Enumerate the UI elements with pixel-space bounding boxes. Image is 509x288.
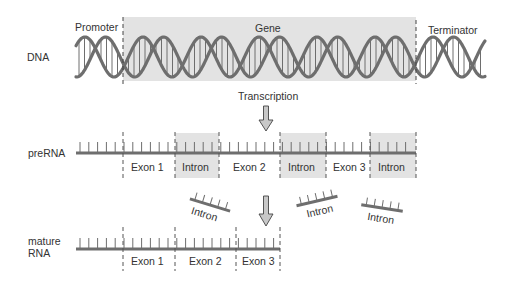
dna-row: DNA Promoter Gene Terminator	[27, 17, 485, 84]
down-arrow-icon	[259, 196, 273, 226]
excised-intron-2-label: Intron	[305, 202, 334, 220]
gene-label: Gene	[255, 22, 281, 34]
prerna-row-label: preRNA	[28, 147, 65, 159]
terminator-label: Terminator	[428, 24, 478, 36]
gene-splicing-diagram: DNA Promoter Gene Terminator Transcripti…	[0, 0, 509, 288]
promoter-label: Promoter	[75, 21, 119, 33]
prerna-intron-2-label: Intron	[288, 161, 315, 173]
prerna-exon-1-label: Exon 1	[131, 161, 164, 173]
mature-rna-row-label-line1: mature	[28, 235, 61, 247]
mature-rna-row: mature RNA Exon 1 Exon 2 Exon 3	[28, 227, 280, 271]
mature-rna-row-label-line2: RNA	[28, 247, 50, 259]
down-arrow-icon	[259, 106, 273, 131]
prerna-ticks	[80, 142, 406, 153]
excised-intron-1: Intron	[185, 191, 232, 226]
prerna-intron-1-label: Intron	[182, 161, 209, 173]
excised-intron-2: Intron	[295, 188, 341, 221]
mature-exon-3-label: Exon 3	[242, 255, 275, 267]
mature-exon-1-label: Exon 1	[131, 255, 164, 267]
dna-row-label: DNA	[27, 51, 49, 63]
transcription-label: Transcription	[238, 90, 298, 102]
excised-intron-3: Intron	[359, 197, 404, 227]
mature-rna-ticks	[80, 238, 274, 249]
excised-intron-3-label: Intron	[367, 210, 396, 226]
prerna-row: preRNA Exon 1 Intron Exon 2 Intron Exon …	[28, 132, 416, 178]
transcription-step: Transcription	[238, 90, 298, 131]
mature-exon-2-label: Exon 2	[189, 255, 222, 267]
prerna-exon-3-label: Exon 3	[333, 161, 366, 173]
prerna-intron-3-label: Intron	[378, 161, 405, 173]
prerna-exon-2-label: Exon 2	[233, 161, 266, 173]
